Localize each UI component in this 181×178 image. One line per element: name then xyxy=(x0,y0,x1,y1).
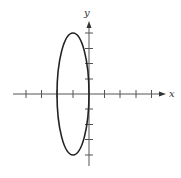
x-axis-label: x xyxy=(169,88,175,99)
y-axis-arrow-icon xyxy=(87,21,92,28)
x-axis-arrow-icon xyxy=(159,92,166,97)
y-axis-label: y xyxy=(83,7,90,18)
graph: x y xyxy=(0,0,181,178)
